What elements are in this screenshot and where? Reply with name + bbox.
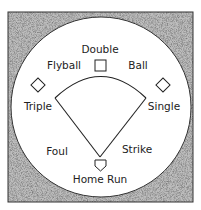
second-base-icon[interactable] [95,60,106,71]
label-ball: Ball [128,59,147,71]
label-flyball: Flyball [47,59,81,71]
label-foul: Foul [46,145,68,157]
label-triple: Triple [23,100,52,112]
label-strike: Strike [122,143,152,155]
baseball-board: Double Flyball Ball Triple Single Foul S… [0,0,201,210]
label-home-run: Home Run [73,173,127,185]
label-single: Single [148,100,180,112]
label-double: Double [81,43,118,55]
